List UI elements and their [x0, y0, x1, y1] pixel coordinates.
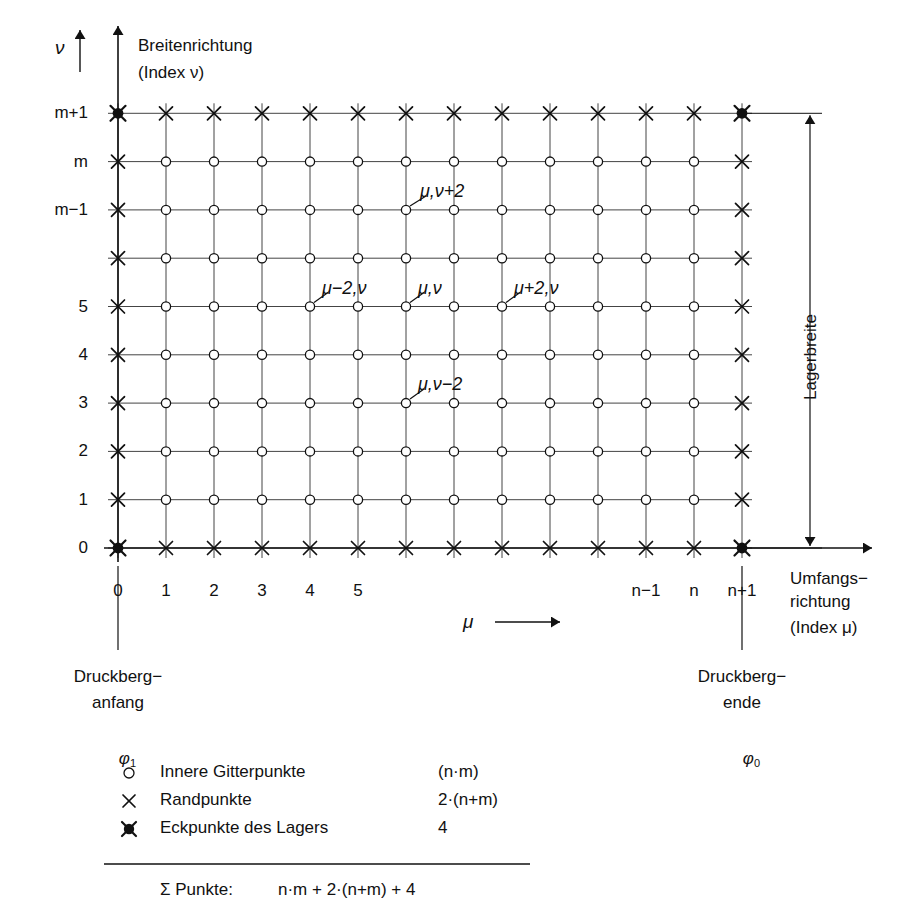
x-tick-label: n−1 [632, 580, 661, 602]
inner-grid-point [305, 205, 314, 214]
grid-point-annotation: μ−2,ν [322, 277, 366, 300]
inner-grid-point [545, 254, 554, 263]
inner-grid-point [353, 157, 362, 166]
inner-grid-point [689, 447, 698, 456]
inner-grid-point [257, 254, 266, 263]
inner-grid-point [353, 205, 362, 214]
y-tick-label: m−1 [54, 199, 88, 221]
inner-grid-point [641, 302, 650, 311]
inner-grid-point [449, 302, 458, 311]
inner-grid-point [497, 399, 506, 408]
inner-grid-point [497, 254, 506, 263]
legend-total-value: n·m + 2·(n+m) + 4 [278, 880, 415, 900]
x-axis-symbol: μ [463, 610, 473, 634]
inner-grid-point [449, 447, 458, 456]
corner-point [735, 106, 750, 121]
inner-grid-point [545, 350, 554, 359]
legend-total-label: Σ Punkte: [160, 880, 233, 900]
legend-label: Innere Gitterpunkte [160, 762, 306, 782]
diagram-canvas: ν Breitenrichtung (Index ν) μ Umfangs− r… [0, 0, 922, 915]
x-axis-title-line1: Umfangs− [790, 568, 868, 590]
inner-grid-point [497, 447, 506, 456]
y-tick-label: m+1 [54, 102, 88, 124]
x-tick-label: n [689, 580, 698, 602]
x-axis-title-line3: (Index μ) [790, 617, 857, 639]
inner-grid-point [257, 495, 266, 504]
inner-grid-point [449, 157, 458, 166]
top-title-line1: Breitenrichtung [138, 35, 252, 57]
inner-grid-point [593, 157, 602, 166]
inner-grid-point [161, 399, 170, 408]
inner-grid-point [257, 205, 266, 214]
inner-grid-point [161, 495, 170, 504]
inner-grid-point [689, 302, 698, 311]
inner-grid-point [161, 254, 170, 263]
inner-grid-point [353, 495, 362, 504]
legend-label: Eckpunkte des Lagers [160, 818, 328, 838]
inner-grid-point [593, 205, 602, 214]
inner-grid-point [593, 399, 602, 408]
inner-grid-point [257, 447, 266, 456]
druckberg-ende-line2: ende [723, 692, 761, 714]
inner-grid-point [545, 447, 554, 456]
inner-grid-point [497, 157, 506, 166]
inner-grid-point [689, 495, 698, 504]
inner-grid-point [353, 399, 362, 408]
inner-grid-point [209, 302, 218, 311]
x-tick-label: n+1 [728, 580, 757, 602]
corner-point [111, 541, 126, 556]
druckberg-anfang-line2: anfang [92, 692, 144, 714]
inner-grid-point [593, 302, 602, 311]
inner-grid-point [449, 399, 458, 408]
x-tick-label: 0 [113, 580, 122, 602]
inner-grid-point [257, 157, 266, 166]
inner-grid-point [401, 205, 410, 214]
inner-grid-point [641, 447, 650, 456]
y-tick-label: 3 [79, 392, 88, 414]
inner-grid-point [449, 350, 458, 359]
inner-grid-point [689, 157, 698, 166]
y-tick-label: 2 [79, 440, 88, 462]
inner-grid-point [401, 157, 410, 166]
inner-grid-point [641, 254, 650, 263]
inner-grid-point [401, 350, 410, 359]
inner-grid-point [209, 495, 218, 504]
inner-grid-point [449, 495, 458, 504]
inner-grid-point [209, 157, 218, 166]
inner-grid-point [257, 302, 266, 311]
inner-grid-point [449, 254, 458, 263]
legend-label: Randpunkte [160, 790, 252, 810]
legend-count: 4 [438, 818, 558, 838]
inner-grid-point [545, 205, 554, 214]
inner-grid-point [257, 399, 266, 408]
inner-grid-point [641, 205, 650, 214]
inner-grid-point [545, 495, 554, 504]
inner-grid-point [497, 350, 506, 359]
inner-grid-point [305, 254, 314, 263]
lagerbreite-dimension-label: Lagerbreite [800, 314, 822, 400]
legend-count: 2·(n+m) [438, 790, 558, 810]
inner-grid-point [641, 157, 650, 166]
inner-grid-point [161, 157, 170, 166]
inner-grid-point [593, 350, 602, 359]
inner-grid-point [689, 254, 698, 263]
inner-grid-point [209, 254, 218, 263]
inner-grid-point [401, 447, 410, 456]
inner-grid-point [305, 447, 314, 456]
inner-grid-point [593, 495, 602, 504]
inner-grid-point [209, 399, 218, 408]
inner-grid-point [353, 302, 362, 311]
corner-point [735, 541, 750, 556]
y-tick-label: 5 [79, 296, 88, 318]
inner-grid-point [593, 254, 602, 263]
inner-grid-point [353, 350, 362, 359]
grid-point-annotation: μ,ν+2 [420, 180, 464, 203]
y-tick-label: 0 [79, 537, 88, 559]
druckberg-anfang-line1: Druckberg− [74, 666, 162, 688]
inner-grid-point [545, 302, 554, 311]
inner-grid-point [305, 157, 314, 166]
inner-grid-point [209, 205, 218, 214]
corner-point [111, 106, 126, 121]
x-tick-label: 4 [305, 580, 314, 602]
druckberg-ende-line1: Druckberg− [698, 666, 786, 688]
